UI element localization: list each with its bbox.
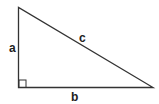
- side-b-label: b: [71, 90, 78, 104]
- side-c-label: c: [79, 31, 86, 45]
- triangle-shape: [19, 8, 154, 88]
- right-triangle-diagram: a c b: [0, 0, 159, 104]
- right-angle-marker: [19, 80, 26, 88]
- side-a-label: a: [9, 41, 16, 55]
